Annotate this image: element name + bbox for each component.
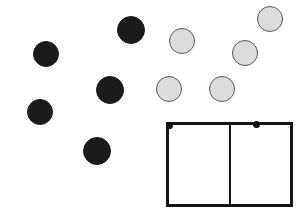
corner-marker [166, 122, 173, 129]
dark-disc [96, 76, 124, 104]
frame-divider [229, 122, 231, 207]
stimulus-canvas [0, 0, 304, 214]
corner-marker [253, 121, 260, 128]
dark-disc [117, 16, 145, 44]
dark-disc [33, 41, 59, 67]
dark-disc [27, 99, 53, 125]
light-disc [169, 28, 195, 54]
light-disc [156, 76, 182, 102]
light-disc [209, 76, 235, 102]
dark-disc [83, 137, 111, 165]
light-disc [257, 6, 283, 32]
light-disc [232, 40, 258, 66]
